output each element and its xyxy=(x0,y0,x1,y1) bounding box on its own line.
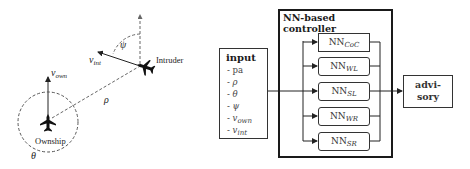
psi-label: ψ xyxy=(120,40,126,50)
input-item-theta: - θ xyxy=(227,89,238,99)
input-item-pa: - pa xyxy=(227,65,243,75)
rho-label: ρ xyxy=(104,95,109,105)
encounter-geometry xyxy=(18,15,157,152)
intruder-label: Intruder xyxy=(156,56,183,65)
input-item-v-own: - vown xyxy=(227,113,252,125)
v-int-label: vint xyxy=(89,55,101,67)
nn-sr-box: NNSR xyxy=(318,132,370,151)
advisory-box: advi- sory xyxy=(403,75,453,108)
input-title: input xyxy=(226,52,256,63)
nn-coc-box: NNCoC xyxy=(318,33,370,52)
input-item-psi: - ψ xyxy=(227,101,239,111)
v-own-label: vown xyxy=(51,68,67,80)
input-item-rho: - ρ xyxy=(227,77,238,87)
input-box: input - pa - ρ - θ - ψ - vown - vint xyxy=(219,48,268,139)
controller-title: NN-based controller xyxy=(283,12,391,34)
input-item-v-int: - vint xyxy=(227,125,247,137)
nn-sl-box: NNSL xyxy=(318,82,370,101)
theta-label: θ xyxy=(31,151,36,161)
v-int-arrow xyxy=(98,52,140,66)
nn-wl-box: NNWL xyxy=(318,57,370,76)
psi-arc xyxy=(113,34,140,54)
ownship-label: Ownship xyxy=(35,137,66,146)
nn-wr-box: NNWR xyxy=(318,107,370,126)
advisory-label: advi- sory xyxy=(404,79,452,103)
